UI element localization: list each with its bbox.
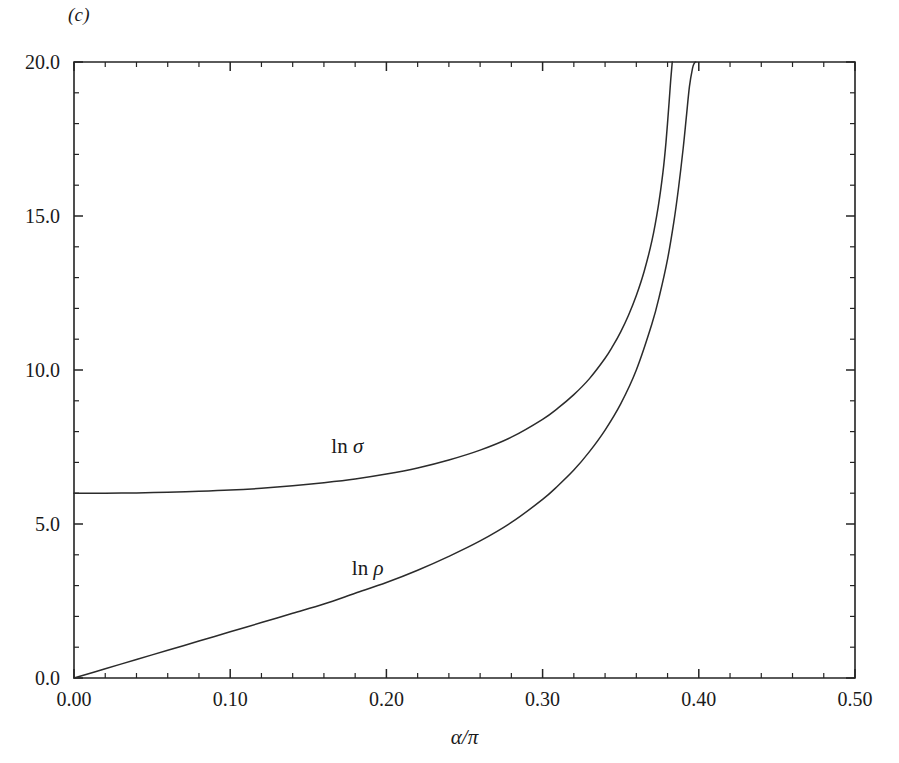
chart-plot-area: 0.05.010.015.020.00.000.100.200.300.400.… [0,0,899,763]
axis-frame [74,62,855,678]
x-tick-label: 0.00 [57,688,92,710]
curve-annotation-0: ln σ [331,434,365,458]
tick-labels-group: 0.05.010.015.020.00.000.100.200.300.400.… [25,51,873,749]
x-tick-label: 0.30 [525,688,560,710]
y-tick-label: 10.0 [25,359,60,381]
curve-series-0 [74,62,672,493]
curve-annotation-1: ln ρ [352,556,384,580]
ticks-group [74,62,855,678]
x-tick-label: 0.20 [369,688,404,710]
x-tick-label: 0.50 [838,688,873,710]
x-tick-label: 0.40 [681,688,716,710]
y-tick-label: 20.0 [25,51,60,73]
x-tick-label: 0.10 [213,688,248,710]
axes-group [74,62,855,678]
y-tick-label: 15.0 [25,205,60,227]
x-axis-title: α/π [451,725,479,749]
y-tick-label: 0.0 [35,667,60,689]
curve-series-1 [74,62,696,678]
curves-group [74,62,696,678]
y-tick-label: 5.0 [35,513,60,535]
figure-panel-c: (c) 0.05.010.015.020.00.000.100.200.300.… [0,0,899,763]
